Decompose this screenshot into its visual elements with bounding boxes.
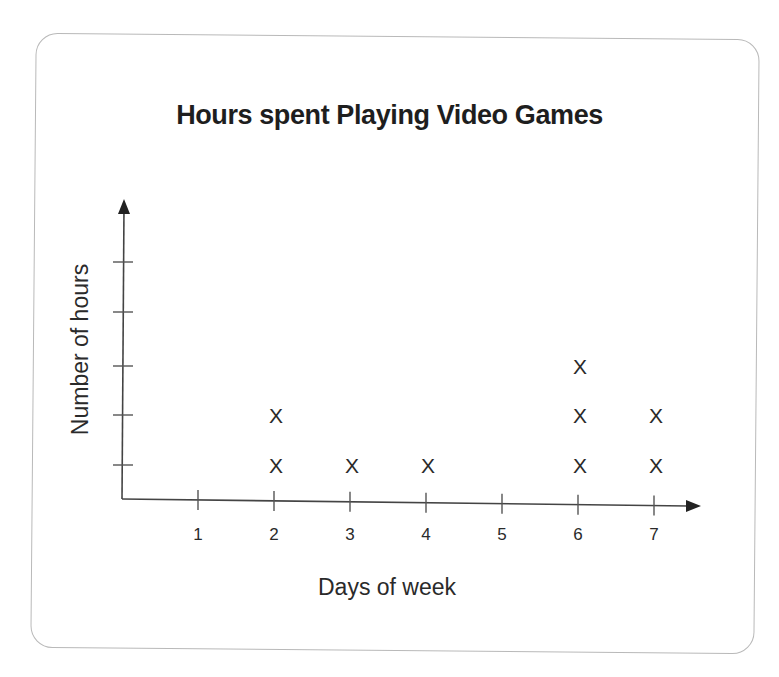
- x-tick-label: 1: [193, 525, 202, 544]
- data-point-x-mark: X: [421, 454, 435, 477]
- x-axis: 1234567: [122, 490, 701, 544]
- data-point-x-mark: X: [649, 404, 663, 427]
- y-axis-arrow-icon: [118, 199, 130, 214]
- x-axis-arrow-icon: [686, 500, 701, 512]
- dot-plot: 1234567 XXXXXXXXX: [0, 0, 779, 677]
- x-tick-label: 2: [269, 525, 278, 544]
- data-point-x-mark: X: [269, 404, 283, 427]
- data-point-x-mark: X: [345, 454, 359, 477]
- x-tick-label: 3: [345, 525, 354, 544]
- x-ticks: 1234567: [193, 490, 658, 544]
- x-tick-label: 5: [497, 525, 506, 544]
- data-point-x-mark: X: [573, 404, 587, 427]
- y-axis: [113, 199, 133, 499]
- data-point-x-mark: X: [649, 454, 663, 477]
- x-tick-label: 6: [573, 525, 582, 544]
- data-marks: XXXXXXXXX: [269, 355, 663, 477]
- x-tick-label: 7: [649, 525, 658, 544]
- data-point-x-mark: X: [269, 454, 283, 477]
- data-point-x-mark: X: [573, 454, 587, 477]
- data-point-x-mark: X: [573, 355, 587, 378]
- x-tick-label: 4: [421, 525, 430, 544]
